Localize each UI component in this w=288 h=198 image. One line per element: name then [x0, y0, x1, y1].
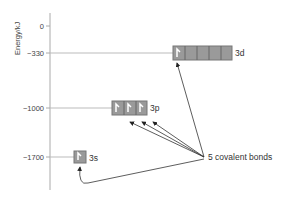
tick-1700: −1700: [23, 153, 44, 162]
label-3s: 3s: [89, 153, 98, 163]
annotation-covalent-bonds: 5 covalent bonds: [208, 152, 272, 162]
tick-1000: −1000: [23, 104, 44, 113]
energy-level-diagram: Energy/kJ 0 −330 −1000 −1700 3d 3p 3s: [0, 0, 288, 198]
tick-0: 0: [40, 22, 44, 31]
orbital-3s: [74, 151, 86, 163]
axis-label: Energy/kJ: [13, 21, 22, 55]
orbital-3p: [112, 101, 147, 115]
orbital-3d: [173, 46, 232, 60]
label-3p: 3p: [150, 103, 160, 113]
bond-arrows: [80, 63, 204, 183]
tick-330: −330: [27, 49, 44, 58]
label-3d: 3d: [235, 48, 245, 58]
